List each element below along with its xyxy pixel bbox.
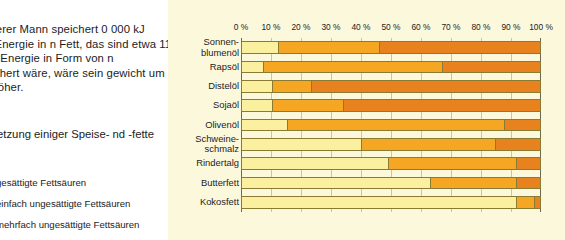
bar-row (241, 41, 541, 54)
bar-segment[interactable] (242, 197, 516, 208)
stacked-bar[interactable] (241, 138, 541, 151)
stacked-bar[interactable] (241, 157, 541, 170)
bar-segment[interactable] (242, 139, 361, 150)
bar-segment[interactable] (242, 178, 430, 189)
bar-row (241, 99, 541, 112)
stacked-bar[interactable] (241, 41, 541, 54)
x-axis-tick-label: 80 % (471, 22, 490, 32)
bar-row (241, 138, 541, 151)
stacked-bar[interactable] (241, 99, 541, 112)
bar-segment[interactable] (343, 100, 540, 111)
category-label: Rapsöl (119, 62, 239, 72)
legend-item-label: mehrfach ungesättigte Fettsäuren (0, 219, 139, 230)
page-root: g schwerer Mann speichert 0 000 kJ seine… (0, 0, 565, 240)
x-axis-tick-label: 100 % (529, 22, 553, 32)
bar-segment[interactable] (242, 158, 388, 169)
category-label: Sojaöl (119, 100, 239, 110)
x-axis-tick-label: 50 % (381, 22, 400, 32)
stacked-bar[interactable] (241, 177, 541, 190)
stacked-bar[interactable] (241, 196, 541, 209)
legend-item-label: gesättigte Fettsäuren (0, 177, 86, 188)
category-label: Rindertalg (119, 158, 239, 168)
bar-segment[interactable] (272, 81, 311, 92)
category-label: Butterfett (119, 178, 239, 188)
legend-item-label: einfach ungesättigte Fettsäuren (0, 198, 130, 209)
chart-plot-area: Sonnen- blumenölRapsölDistelölSojaölOliv… (241, 38, 541, 212)
bar-row (241, 157, 541, 170)
category-label: Distelöl (119, 81, 239, 91)
chart-panel: 0 %10 %20 %30 %40 %50 %60 %70 %80 %90 %1… (168, 0, 565, 240)
bar-segment[interactable] (287, 120, 505, 131)
bar-segment[interactable] (388, 158, 516, 169)
x-axis-tick-label: 40 % (351, 22, 370, 32)
bar-segment[interactable] (311, 81, 540, 92)
bar-row (241, 177, 541, 190)
bar-segment[interactable] (516, 178, 540, 189)
bar-segment[interactable] (242, 62, 263, 73)
legend-item-polyunsaturated: mehrfach ungesättigte Fettsäuren (0, 214, 168, 235)
bar-segment[interactable] (516, 197, 534, 208)
category-label: Kokosfett (119, 197, 239, 207)
x-axis-tick-label: 20 % (291, 22, 310, 32)
bar-segment[interactable] (242, 120, 287, 131)
bar-segment[interactable] (516, 158, 540, 169)
stacked-bar[interactable] (241, 80, 541, 93)
bar-row (241, 119, 541, 132)
bar-segment[interactable] (379, 42, 540, 53)
x-axis-tick-label: 0 % (234, 22, 248, 32)
bar-segment[interactable] (272, 100, 344, 111)
bar-segment[interactable] (361, 139, 495, 150)
bar-segment[interactable] (534, 197, 540, 208)
bar-segment[interactable] (242, 100, 272, 111)
bar-row (241, 196, 541, 209)
bar-segment[interactable] (430, 178, 516, 189)
bar-row (241, 80, 541, 93)
x-axis-tick-label: 70 % (441, 22, 460, 32)
x-axis-tick-label: 60 % (411, 22, 430, 32)
stacked-bar[interactable] (241, 119, 541, 132)
category-label: Sonnen- blumenöl (119, 37, 239, 58)
x-axis-tick-labels: 0 %10 %20 %30 %40 %50 %60 %70 %80 %90 %1… (168, 22, 565, 36)
bar-row (241, 61, 541, 74)
bar-segment[interactable] (495, 139, 540, 150)
bar-segment[interactable] (242, 42, 278, 53)
bar-segment[interactable] (278, 42, 379, 53)
stacked-bar[interactable] (241, 61, 541, 74)
bar-segment[interactable] (242, 81, 272, 92)
x-axis-tick-label: 30 % (321, 22, 340, 32)
category-label: Schweine- schmalz (119, 134, 239, 155)
x-axis-tick-label: 10 % (261, 22, 280, 32)
x-axis-tick-label: 90 % (501, 22, 520, 32)
bar-segment[interactable] (263, 62, 442, 73)
bar-segment[interactable] (504, 120, 540, 131)
category-label: Olivenöl (119, 120, 239, 130)
bar-segment[interactable] (442, 62, 540, 73)
